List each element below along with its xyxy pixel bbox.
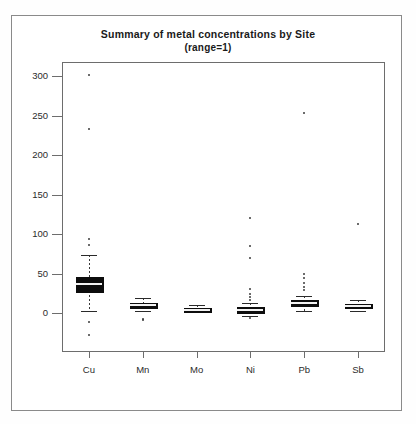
- box-cu: [76, 277, 104, 293]
- boxplot-layer: [0, 0, 416, 424]
- outlier-ni: [249, 299, 251, 301]
- median-ni: [237, 309, 263, 311]
- whisker-upper-cu: [89, 255, 90, 276]
- outlier-pb: [303, 289, 305, 291]
- whisker-cap-upper-ni: [242, 303, 258, 304]
- outlier-mn: [142, 319, 144, 321]
- outlier-cu: [88, 244, 90, 246]
- outlier-ni: [249, 293, 251, 295]
- whisker-lower-cu: [89, 291, 90, 311]
- outlier-ni: [249, 217, 251, 219]
- whisker-cap-lower-sb: [350, 311, 366, 312]
- outlier-cu: [88, 74, 90, 76]
- median-sb: [345, 305, 371, 307]
- outlier-pb: [303, 273, 305, 275]
- outlier-ni: [249, 288, 251, 290]
- whisker-cap-lower-pb: [296, 311, 312, 312]
- outlier-sb: [357, 223, 359, 225]
- whisker-cap-lower-mn: [135, 311, 151, 312]
- whisker-cap-lower-cu: [81, 311, 97, 312]
- outlier-cu: [88, 334, 90, 336]
- whisker-cap-upper-sb: [350, 300, 366, 301]
- median-mo: [184, 309, 210, 311]
- screenshot-page: Summary of metal concentrations by Site …: [0, 0, 416, 424]
- median-mn: [130, 304, 156, 306]
- outlier-cu: [88, 321, 90, 323]
- outlier-ni: [249, 245, 251, 247]
- median-pb: [291, 302, 317, 304]
- outlier-pb: [303, 286, 305, 288]
- whisker-cap-upper-mn: [135, 298, 151, 299]
- outlier-cu: [88, 238, 90, 240]
- median-cu: [76, 283, 102, 285]
- outlier-pb: [303, 282, 305, 284]
- whisker-cap-upper-cu: [81, 255, 97, 256]
- outlier-pb: [303, 277, 305, 279]
- whisker-cap-upper-pb: [296, 296, 312, 297]
- outlier-pb: [303, 112, 305, 114]
- whisker-cap-upper-mo: [189, 305, 205, 306]
- outlier-ni: [249, 257, 251, 259]
- outlier-ni: [249, 296, 251, 298]
- outlier-cu: [88, 128, 90, 130]
